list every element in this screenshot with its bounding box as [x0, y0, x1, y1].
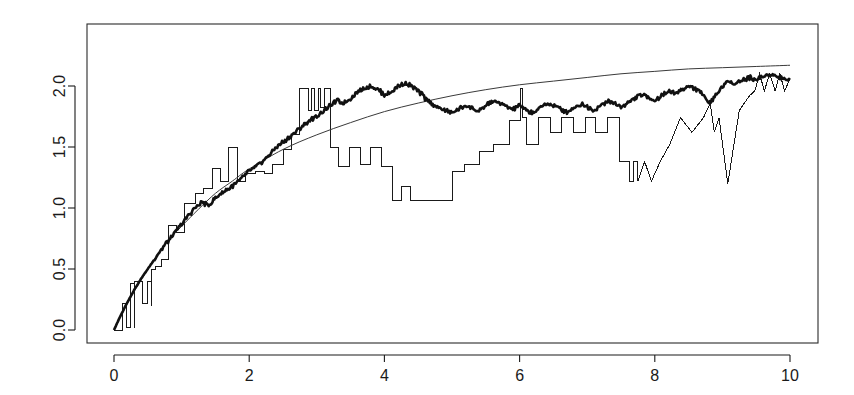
- y-tick-label: 0.5: [51, 258, 68, 280]
- y-tick-label: 0.0: [51, 319, 68, 341]
- y-tick-label: 2.0: [51, 75, 68, 97]
- chart-figure: 0246810 0.00.51.01.52.0: [0, 0, 854, 395]
- x-tick-label: 0: [110, 367, 119, 384]
- x-tick-label: 10: [781, 367, 799, 384]
- chart-background: [0, 0, 854, 395]
- y-tick-label: 1.0: [51, 197, 68, 219]
- x-tick-label: 6: [515, 367, 524, 384]
- cumulative-hazard-chart: 0246810 0.00.51.01.52.0: [0, 0, 854, 395]
- x-tick-label: 4: [380, 367, 389, 384]
- x-tick-label: 8: [650, 367, 659, 384]
- y-tick-label: 1.5: [51, 136, 68, 158]
- x-tick-label: 2: [245, 367, 254, 384]
